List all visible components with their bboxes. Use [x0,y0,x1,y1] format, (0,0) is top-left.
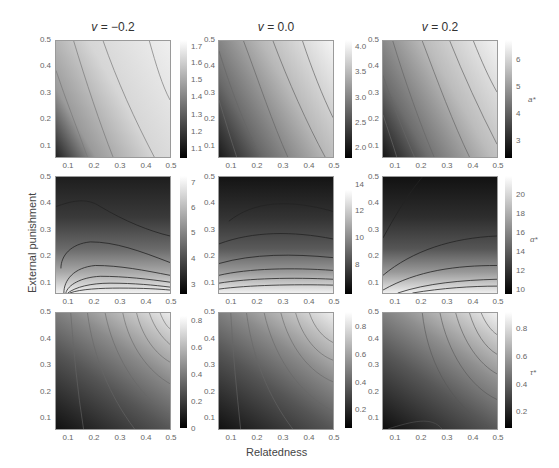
y-tick: 0.5 [359,307,379,316]
cbar-tick: 14 [355,180,364,189]
contour-lines [383,177,497,293]
cbar-tick: 18 [516,209,525,218]
y-tick: 0.3 [31,88,51,97]
colorbar-a-vneg [180,40,187,158]
y-tick: 0.3 [195,360,215,369]
y-tick: 0.4 [31,61,51,70]
cbar-tick: 3 [516,136,520,145]
x-tick: 0.1 [58,433,78,442]
cbar-tick: 0.4 [355,378,366,387]
x-tick: 0.1 [221,433,241,442]
y-tick: 0.2 [31,114,51,123]
y-tick: 0.5 [31,172,51,181]
cbar-tick: 0.2 [191,397,202,406]
cbar-tick: 0 [191,424,195,433]
y-tick: 0.5 [359,35,379,44]
cbar-tick: 10 [516,285,525,294]
y-tick: 0.1 [359,278,379,287]
column-title-v-neg: v = −0.2 [55,20,171,34]
x-tick: 0.1 [58,161,78,170]
cbar-tick: 0.2 [516,407,527,416]
x-tick: 0.3 [437,297,457,306]
y-tick: 0.4 [195,334,215,343]
colorbar-a-vzero [345,40,352,158]
y-tick: 0.4 [359,61,379,70]
cbar-tick: 0.4 [516,380,527,389]
column-title-v-pos: v = 0.2 [382,20,498,34]
y-tick: 0.2 [359,114,379,123]
x-tick: 0.1 [385,161,405,170]
x-tick: 0.5 [324,433,344,442]
y-tick: 0.1 [359,141,379,150]
x-tick: 0.2 [411,297,431,306]
x-tick: 0.3 [273,297,293,306]
cbar-tick: 0.4 [191,370,202,379]
heatmap-a-vzero [218,40,334,158]
x-tick: 0.2 [84,297,104,306]
x-tick: 0.2 [411,161,431,170]
y-tick: 0.2 [195,387,215,396]
heatmap-a-vpos [382,40,498,158]
x-tick: 0.3 [110,297,130,306]
cbar-tick: 6 [516,55,520,64]
x-tick: 0.5 [161,297,181,306]
y-tick: 0.4 [359,198,379,207]
y-axis-label: External punishment [26,193,38,293]
contour-lines [56,41,170,157]
x-tick: 0.4 [299,297,319,306]
x-tick: 0.2 [411,433,431,442]
y-tick: 0.1 [31,141,51,150]
cbar-tick: 12 [516,266,525,275]
title-value: = 0.2 [428,20,458,34]
cbar-tick: 0.8 [355,322,366,331]
cbar-tick: 1.5 [191,75,202,84]
x-tick: 0.3 [110,433,130,442]
cbar-tick: 5 [516,82,520,91]
x-tick: 0.1 [385,297,405,306]
contour-lines [383,41,497,157]
x-tick: 0.4 [136,433,156,442]
y-tick: 0.1 [359,413,379,422]
title-value: = −0.2 [97,20,134,34]
colorbar-tau-vneg [180,316,187,428]
y-tick: 0.3 [359,225,379,234]
title-value: = 0.0 [264,20,294,34]
contour-lines [219,313,333,429]
x-tick: 0.5 [324,297,344,306]
x-tick: 0.1 [58,297,78,306]
x-tick: 0.5 [324,161,344,170]
x-tick: 0.3 [273,161,293,170]
cbar-tick: 0.8 [191,316,202,325]
heatmap-alpha-vpos [382,176,498,294]
contour-lines [56,177,170,293]
x-axis-label: Relatedness [246,446,307,458]
heatmap-tau-vpos [382,312,498,430]
x-tick: 0.4 [463,161,483,170]
x-tick: 0.2 [84,433,104,442]
x-tick: 0.3 [437,161,457,170]
cbar-tick: 0.6 [355,350,366,359]
y-tick: 0.5 [359,172,379,181]
y-tick: 0.2 [359,251,379,260]
cbar-tick: 10 [355,233,364,242]
colorbar-a-vpos [505,40,512,158]
y-tick: 0.3 [359,88,379,97]
y-tick: 0.1 [31,413,51,422]
x-tick: 0.1 [385,433,405,442]
x-tick: 0.5 [161,161,181,170]
colorbar-alpha-vpos [505,176,512,294]
cbar-tick: 4 [516,109,520,118]
y-tick: 0.2 [31,387,51,396]
y-tick: 0.5 [195,307,215,316]
y-tick: 0.3 [31,360,51,369]
y-tick: 0.2 [359,387,379,396]
y-tick: 0.5 [31,35,51,44]
cbar-tick: 0.8 [516,324,527,333]
x-tick: 0.2 [247,297,267,306]
x-tick: 0.5 [488,433,508,442]
heatmap-alpha-vzero [218,176,334,294]
cbar-tick: 0.6 [516,352,527,361]
heatmap-tau-vzero [218,312,334,430]
x-tick: 0.1 [221,161,241,170]
x-tick: 0.2 [84,161,104,170]
